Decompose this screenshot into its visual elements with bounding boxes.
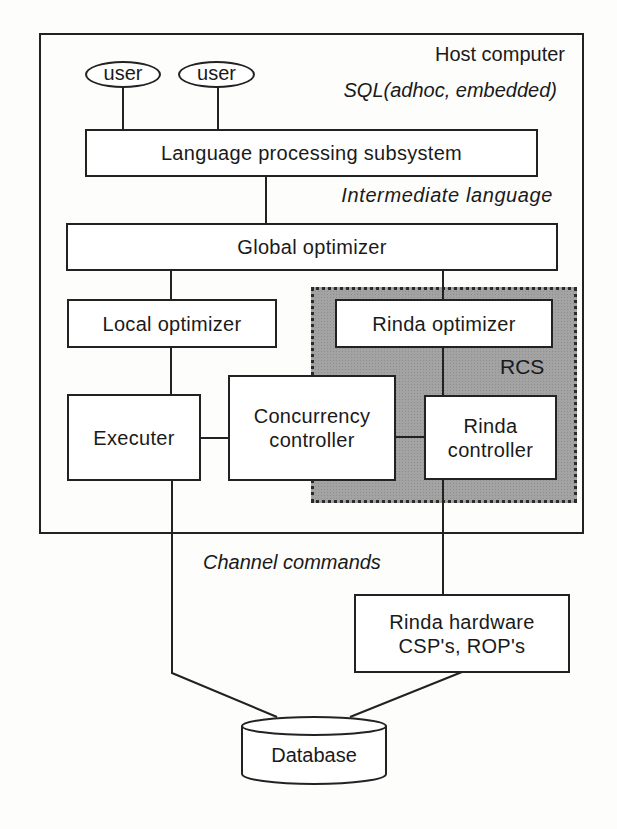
rinda-optimizer-box: Rinda optimizer [335,299,553,348]
rinda-controller-line-2: controller [448,438,533,462]
concurrency-line-2: controller [269,428,354,452]
user-node-2: user [178,61,255,88]
executer-box: Executer [67,394,201,481]
concurrency-controller-box: Concurrency controller [228,375,396,481]
host-computer-label: Host computer [435,43,565,65]
sql-annotation: SQL(adhoc, embedded) [344,79,557,101]
rinda-controller-box: Rinda controller [424,395,557,480]
rinda-hardware-box: Rinda hardware CSP's, ROP's [354,594,570,673]
clipped-figure-caption [0,812,617,829]
rinda-optimizer-label: Rinda optimizer [372,312,515,336]
intermediate-language-annotation: Intermediate language [341,184,553,206]
channel-commands-annotation: Channel commands [203,551,381,573]
language-processing-label: Language processing subsystem [161,141,462,165]
concurrency-line-1: Concurrency [254,404,371,428]
database-label: Database [242,744,386,767]
rcs-label: RCS [500,356,544,378]
local-optimizer-box: Local optimizer [67,299,277,348]
local-optimizer-label: Local optimizer [102,312,241,336]
global-optimizer-box: Global optimizer [66,223,558,271]
rinda-hardware-line-1: Rinda hardware [389,610,534,634]
global-optimizer-label: Global optimizer [237,235,386,259]
rinda-hardware-line-2: CSP's, ROP's [399,634,526,658]
language-processing-subsystem-box: Language processing subsystem [85,129,538,177]
executer-label: Executer [93,426,174,450]
rinda-system-architecture-diagram: Host computer user user SQL(adhoc, embed… [0,0,617,829]
user-node-1: user [85,61,161,88]
rinda-controller-line-1: Rinda [464,414,518,438]
